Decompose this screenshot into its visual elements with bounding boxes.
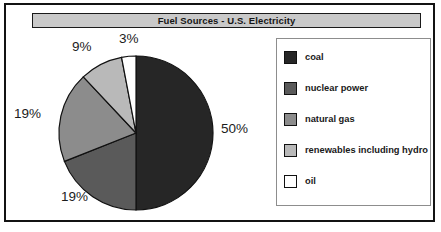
pie-slice-label: 9% — [72, 39, 92, 54]
pie-slice[interactable] — [136, 56, 213, 210]
legend-swatch-icon — [284, 175, 297, 188]
legend-item-label: coal — [305, 52, 324, 62]
legend-item[interactable]: oil — [284, 174, 316, 188]
chart-title-bar: Fuel Sources - U.S. Electricity — [32, 13, 421, 28]
legend-item[interactable]: natural gas — [284, 112, 355, 126]
legend-item-label: nuclear power — [305, 83, 368, 93]
legend-swatch-icon — [284, 82, 297, 95]
chart-figure: Fuel Sources - U.S. Electricity 50%19%19… — [0, 0, 441, 232]
pie-slice-label: 50% — [221, 121, 248, 136]
legend-item[interactable]: renewables including hydro — [284, 143, 428, 157]
chart-frame: Fuel Sources - U.S. Electricity 50%19%19… — [4, 3, 435, 222]
legend-swatch-icon — [284, 144, 297, 157]
legend-item[interactable]: nuclear power — [284, 81, 368, 95]
legend-item-label: oil — [305, 176, 316, 186]
legend-item-label: natural gas — [305, 114, 355, 124]
pie-slice-label: 19% — [61, 189, 88, 204]
legend-swatch-icon — [284, 113, 297, 126]
legend-item[interactable]: coal — [284, 50, 324, 64]
legend-swatch-icon — [284, 51, 297, 64]
pie-slice-label: 3% — [119, 31, 139, 46]
chart-legend: coalnuclear powernatural gasrenewables i… — [276, 38, 431, 206]
pie-chart-area: 50%19%19%9%3% — [14, 31, 266, 223]
legend-item-label: renewables including hydro — [305, 145, 428, 155]
page-title: Fuel Sources - U.S. Electricity — [158, 15, 296, 26]
pie-slice-label: 19% — [14, 106, 41, 121]
